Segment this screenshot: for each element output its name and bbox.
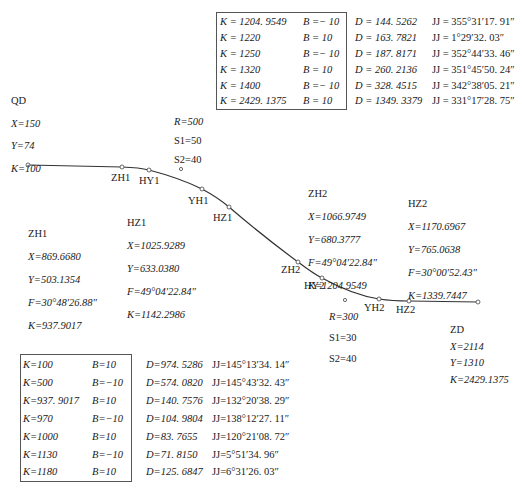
curve1-params: R=500 S1=50 S2=40 (174, 112, 203, 169)
hz1-f: F=49°04′22.84″ (127, 286, 196, 297)
zh1-info: ZH1 X=869.6680 Y=503.1354 F=30°48′26.88″… (28, 222, 97, 337)
label-yh1: YH1 (188, 195, 208, 207)
zd-y: Y=1310 (450, 357, 484, 368)
zd-info: ZD X=2114 Y=1310 K=2429.1375 (450, 322, 509, 388)
cell-k: K=937. 9017 (23, 392, 79, 409)
curve2-params: R=300 S1=30 S2=40 (329, 306, 358, 369)
cell-d: D=140. 7576 (146, 392, 203, 409)
zd-name: ZD (450, 322, 509, 339)
cell-d: D = 260. 2136 (355, 61, 417, 78)
zd-x: X=2114 (450, 341, 484, 352)
curve1-s1: S1=50 (174, 131, 203, 150)
point-yh2 (377, 297, 381, 301)
label-yh2: YH2 (364, 302, 384, 314)
zh1-k: K=937.9017 (28, 320, 81, 331)
cell-k: K=1130 (23, 446, 57, 463)
zh2-k: K=1204.9549 (308, 280, 367, 291)
cell-b: B=−10 (92, 374, 123, 391)
cell-b: B = 10 (303, 92, 332, 109)
zd-k: K=2429.1375 (450, 374, 509, 385)
qd-x: X=150 (11, 118, 40, 129)
cell-jj: JJ = 352°44′33. 46″ (432, 45, 515, 62)
cell-k: K = 1320 (220, 61, 260, 78)
cell-k: K = 1204. 9549 (220, 13, 287, 30)
cell-d: D = 144. 5262 (355, 13, 417, 30)
cell-k: K = 2429. 1375 (220, 92, 287, 109)
hz1-info: HZ1 X=1025.9289 Y=633.0380 F=49°04′22.84… (127, 211, 196, 326)
hz2-x: X=1170.6967 (408, 221, 465, 232)
cell-jj: JJ = 331°17′28. 75″ (432, 92, 515, 109)
curve2-s2: S2=40 (329, 348, 358, 369)
cell-d: D=71. 8150 (146, 446, 197, 463)
label-zh2: ZH2 (281, 264, 300, 276)
hz2-f: F=30°00′52.43″ (408, 267, 477, 278)
cell-k: K=500 (23, 374, 53, 391)
zh2-name: ZH2 (308, 182, 377, 205)
curve2-s1: S1=30 (329, 327, 358, 348)
zh1-name: ZH1 (28, 222, 97, 245)
point-hy1 (147, 168, 151, 172)
cell-b: B=10 (92, 392, 116, 409)
hz2-name: HZ2 (408, 192, 477, 215)
curve1-r: R=500 (174, 116, 203, 127)
cell-k: K=1180 (23, 463, 57, 480)
cell-d: D=125. 6847 (146, 463, 203, 480)
point-yh1 (200, 187, 204, 191)
curve1-s2: S2=40 (174, 150, 203, 169)
cell-d: D = 187. 8171 (355, 45, 417, 62)
cell-k: K=100 (23, 356, 53, 373)
center-curve2 (343, 298, 346, 301)
cell-d: D=574. 0820 (146, 374, 203, 391)
hz1-y: Y=633.0380 (127, 263, 179, 274)
cell-b: B=−10 (92, 446, 123, 463)
hz2-k: K=1339.7447 (408, 290, 467, 301)
zh2-info: ZH2 X=1066.9749 Y=680.3777 F=49°04′22.84… (308, 182, 377, 297)
cell-jj: JJ = 355°31′17. 91″ (432, 13, 515, 30)
point-zh1 (120, 165, 124, 169)
cell-jj: JJ=145°13′34. 14″ (212, 356, 289, 373)
cell-jj: JJ=120°21′08. 72″ (212, 428, 289, 445)
point-hz1 (227, 205, 231, 209)
cell-b: B=10 (92, 428, 116, 445)
cell-k: K = 1250 (220, 45, 260, 62)
qd-k: K=100 (11, 163, 41, 174)
zh2-x: X=1066.9749 (308, 211, 366, 222)
cell-d: D = 1349. 3379 (355, 92, 422, 109)
cell-jj: JJ=138°12′27. 11″ (212, 410, 289, 427)
hz2-info: HZ2 X=1170.6967 Y=765.0638 F=30°00′52.43… (408, 192, 477, 307)
label-hy1: HY1 (139, 175, 159, 187)
qd-y: Y=74 (11, 140, 34, 151)
cell-b: B = 10 (303, 61, 332, 78)
hz1-name: HZ1 (127, 211, 196, 234)
cell-b: B =− 10 (303, 45, 339, 62)
cell-jj: JJ = 1°29′32. 03″ (432, 29, 504, 46)
cell-b: B=−10 (92, 410, 123, 427)
qd-info: QD X=150 Y=74 K=100 (11, 90, 41, 180)
cell-b: B=10 (92, 356, 116, 373)
hz2-y: Y=765.0638 (408, 244, 460, 255)
cell-k: K=1000 (23, 428, 58, 445)
cell-k: K = 1220 (220, 29, 260, 46)
cell-d: D = 163. 7821 (355, 29, 417, 46)
cell-b: B=10 (92, 463, 116, 480)
cell-b: B =− 10 (303, 13, 339, 30)
cell-d: D=83. 7655 (146, 428, 197, 445)
cell-b: B = 10 (303, 29, 332, 46)
zh2-y: Y=680.3777 (308, 234, 360, 245)
zh1-y: Y=503.1354 (28, 274, 80, 285)
label-zh1: ZH1 (111, 172, 130, 184)
curve2-r: R=300 (329, 311, 358, 322)
zh1-f: F=30°48′26.88″ (28, 297, 97, 308)
zh2-f: F=49°04′22.84″ (308, 257, 377, 268)
cell-jj: JJ=6°31′26. 03″ (212, 463, 279, 480)
cell-jj: JJ=132°20′38. 29″ (212, 392, 289, 409)
cell-d: D=974. 5286 (146, 356, 203, 373)
cell-jj: JJ=5°51′34. 96″ (212, 446, 279, 463)
hz1-x: X=1025.9289 (127, 240, 185, 251)
cell-jj: JJ=145°43′32. 43″ (212, 374, 289, 391)
cell-jj: JJ = 351°45′50. 24″ (432, 61, 515, 78)
cell-k: K=970 (23, 410, 53, 427)
hz1-k: K=1142.2986 (127, 309, 185, 320)
qd-name: QD (11, 90, 41, 113)
zh1-x: X=869.6680 (28, 251, 81, 262)
